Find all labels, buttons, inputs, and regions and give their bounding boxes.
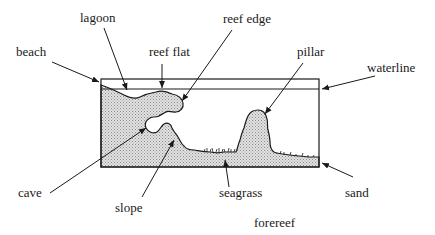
label-pillar: pillar [297,44,325,59]
waterline-arrow [322,76,375,89]
label-reef-edge: reef edge [223,11,271,26]
label-waterline: waterline [367,60,416,75]
label-lagoon: lagoon [80,10,116,25]
label-arrows [50,28,375,197]
label-reef-flat: reef flat [149,44,190,59]
beach-arrow [52,62,99,82]
reef-body [101,85,319,167]
sand-arrow [322,163,353,177]
lagoon-arrow [104,28,127,90]
label-slope: slope [115,200,143,215]
label-forereef: forereef [254,215,296,230]
reef-edge-arrow [182,30,232,101]
label-seagrass: seagrass [219,185,262,200]
label-sand: sand [345,185,369,200]
label-beach: beach [16,44,47,59]
label-cave: cave [18,185,42,200]
reef-diagram: beach lagoon reef flat reef edge pillar … [0,0,435,235]
